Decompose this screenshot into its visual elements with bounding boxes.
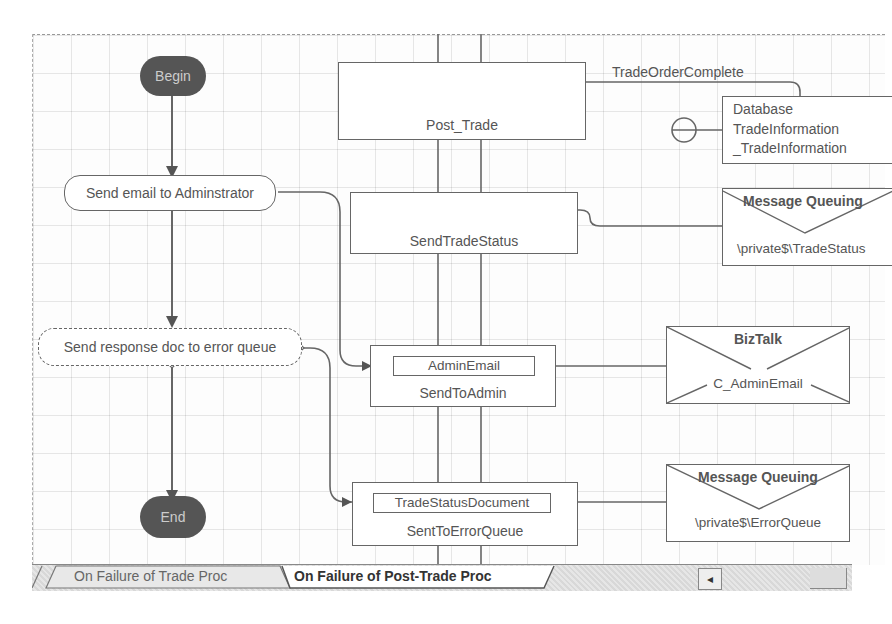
database-line2: TradeInformation (733, 121, 839, 137)
begin-label: Begin (155, 68, 191, 84)
mq-trade-status-title: Message Queuing (743, 193, 892, 209)
send-email-label: Send email to Adminstrator (86, 185, 254, 201)
end-shape[interactable]: End (140, 496, 206, 538)
port-send-to-admin[interactable]: AdminEmail SendToAdmin (370, 345, 556, 407)
port-post-trade-label: Post_Trade (339, 117, 585, 133)
biztalk-subtitle: C_AdminEmail (667, 376, 849, 391)
send-response-label: Send response doc to error queue (64, 339, 276, 355)
chevron-left-icon: ◂ (707, 572, 713, 586)
send-response-shape[interactable]: Send response doc to error queue (38, 328, 302, 366)
binding-biztalk-admin[interactable]: BizTalk C_AdminEmail (666, 326, 850, 404)
connector-label-trade-order-complete: TradeOrderComplete (612, 64, 744, 80)
port-sent-to-error-queue-label: SentToErrorQueue (353, 523, 577, 539)
mq-trade-status-subtitle: \private$\TradeStatus (737, 241, 892, 256)
scroll-left-button[interactable]: ◂ (698, 568, 722, 590)
port-post-trade[interactable]: Post_Trade (338, 62, 586, 140)
binding-mq-trade-status[interactable]: Message Queuing \private$\TradeStatus (722, 188, 892, 266)
port-sent-to-error-queue[interactable]: TradeStatusDocument SentToErrorQueue (352, 482, 578, 546)
mq-error-subtitle: \private$\ErrorQueue (667, 515, 849, 530)
message-admin-email[interactable]: AdminEmail (393, 356, 535, 376)
message-trade-status-document[interactable]: TradeStatusDocument (373, 493, 551, 513)
port-send-to-admin-label: SendToAdmin (371, 385, 555, 401)
send-email-shape[interactable]: Send email to Adminstrator (64, 175, 276, 211)
end-label: End (161, 509, 186, 525)
mq-error-title: Message Queuing (667, 469, 849, 485)
port-send-trade-status-label: SendTradeStatus (351, 233, 577, 249)
tab-on-failure-post-trade-proc[interactable]: On Failure of Post-Trade Proc (294, 564, 492, 588)
begin-shape[interactable]: Begin (140, 56, 206, 96)
biztalk-title: BizTalk (667, 331, 849, 347)
database-line3: _TradeInformation (733, 140, 847, 156)
tab-on-failure-trade-proc[interactable]: On Failure of Trade Proc (74, 564, 227, 588)
database-line1: Database (733, 101, 793, 117)
scrollbar-thumb[interactable] (810, 568, 847, 589)
tab-strip: On Failure of Trade Proc On Failure of P… (32, 564, 852, 591)
binding-database[interactable]: Database TradeInformation _TradeInformat… (722, 96, 892, 164)
binding-mq-error[interactable]: Message Queuing \private$\ErrorQueue (666, 464, 850, 542)
port-send-trade-status[interactable]: SendTradeStatus (350, 192, 578, 254)
